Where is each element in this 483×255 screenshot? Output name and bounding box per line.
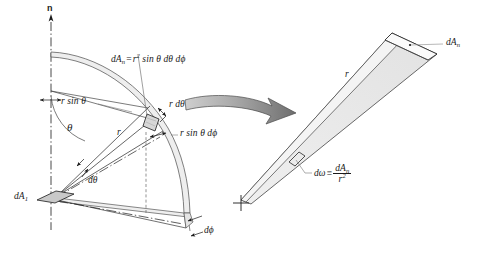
label-r-right: r [345, 70, 349, 80]
label-dA1: dA1 [14, 192, 28, 202]
omega-numerator-sub: n [346, 167, 349, 174]
label-dphi: dϕ [204, 226, 214, 236]
area-formula-rest: sin θ dθ dϕ [142, 54, 185, 64]
label-r-sin-theta-dphi: r sin θ dϕ [180, 129, 217, 139]
area-formula-exponent: 2 [136, 52, 139, 59]
omega-formula-denominator: r2 [333, 174, 351, 185]
label-dAn-right-main: dA [446, 37, 457, 47]
r-sin-theta-dphi-dimension [150, 133, 166, 137]
area-formula-equals: = [125, 54, 132, 64]
label-dtheta: dθ [88, 176, 98, 186]
phi-wedge [57, 198, 190, 231]
solid-angle-figure: n dAn=r2 sin θ dθ dϕ r sin θ θ r r dθ r … [0, 0, 483, 255]
label-r-sin-theta: r sin θ [61, 97, 86, 107]
r-sin-theta-leader [98, 104, 132, 112]
magnification-arrow [185, 95, 296, 124]
label-r: r [117, 128, 121, 138]
label-dAn-right-sub: n [457, 41, 460, 48]
omega-denominator-exp: 2 [342, 172, 345, 179]
axis-label-n: n [47, 4, 53, 13]
area-formula-lhs: dA [111, 54, 122, 64]
label-r-dtheta: r dθ [169, 100, 185, 110]
area-formula: dAn=r2 sin θ dθ dϕ [111, 55, 185, 65]
omega-formula-fraction: dAnr2 [333, 163, 351, 185]
omega-numerator-main: dA [335, 163, 346, 173]
label-dA1-sub: 1 [25, 195, 28, 202]
label-theta: θ [67, 122, 73, 134]
omega-formula-lhs: dω [314, 168, 326, 178]
omega-formula-equals: ≡ [326, 168, 333, 178]
area-formula-lhs-sub: n [122, 58, 125, 65]
omega-formula: dω≡dAnr2 [314, 163, 351, 185]
label-dAn-right: dAn [446, 38, 460, 48]
label-dA1-main: dA [14, 191, 25, 201]
